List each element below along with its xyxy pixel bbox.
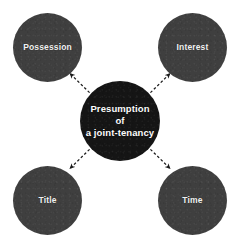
node-possession[interactable]: Possession bbox=[13, 13, 82, 82]
connector-center-to-possession bbox=[71, 74, 94, 96]
node-possession-label: Possession bbox=[23, 43, 72, 53]
node-time-label: Time bbox=[182, 196, 202, 206]
node-title-label: Title bbox=[38, 196, 56, 206]
diagram-canvas: Possession Interest Title Time Presumpti… bbox=[0, 0, 240, 247]
node-title[interactable]: Title bbox=[13, 166, 82, 235]
node-center-label-line-2: a joint-tenancy bbox=[86, 127, 155, 138]
node-center-label-line-1: Presumption of bbox=[90, 103, 149, 126]
node-time[interactable]: Time bbox=[158, 166, 227, 235]
connector-center-to-interest bbox=[147, 74, 170, 96]
connector-center-to-title bbox=[71, 146, 94, 168]
node-interest-label: Interest bbox=[177, 43, 209, 53]
node-center-label: Presumption of a joint-tenancy bbox=[80, 103, 160, 139]
node-center-presumption[interactable]: Presumption of a joint-tenancy bbox=[80, 81, 160, 161]
connector-center-to-time bbox=[147, 146, 170, 168]
node-interest[interactable]: Interest bbox=[158, 13, 227, 82]
